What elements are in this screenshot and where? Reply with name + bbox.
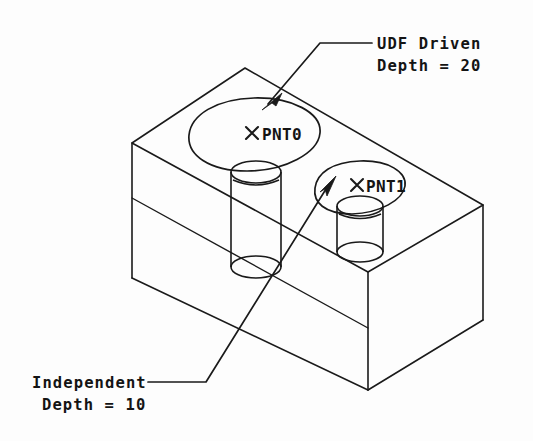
leader-arrow-icon [262, 93, 282, 110]
x-cross-icon [246, 127, 258, 139]
block-solid [132, 68, 483, 390]
leader-independent [148, 176, 336, 382]
pnt1-label: PNT1 [366, 177, 406, 196]
block-bottom-right-edge [368, 320, 483, 390]
independent-line2: Depth = 10 [42, 396, 146, 414]
isometric-block-drawing: PNT0 PNT1 UDF Driven Depth = 20 Independ… [0, 0, 533, 441]
block-top-face [132, 68, 483, 272]
hole-pnt0-top-rim [231, 161, 281, 183]
point-marker-pnt1[interactable]: PNT1 [351, 177, 406, 196]
hole-pnt1-bottom-rim [337, 242, 383, 262]
hole-pnt1 [337, 196, 383, 262]
block-bottom-left-edge [132, 278, 368, 390]
annotation-independent: Independent Depth = 10 [32, 374, 147, 414]
point-marker-pnt0[interactable]: PNT0 [246, 125, 302, 144]
drawing-canvas: PNT0 PNT1 UDF Driven Depth = 20 Independ… [0, 0, 533, 441]
pnt0-label: PNT0 [262, 125, 302, 144]
block-internal-seam-edge [132, 198, 368, 328]
udf-line1: UDF Driven [377, 35, 481, 53]
independent-line1: Independent [32, 374, 147, 392]
leader-udf-line [268, 43, 372, 104]
x-cross-icon [351, 179, 363, 191]
leader-arrow-icon [320, 176, 336, 196]
leader-independent-line [148, 189, 326, 382]
udf-line2: Depth = 20 [377, 57, 481, 75]
leader-udf-driven [262, 43, 372, 110]
annotation-udf: UDF Driven Depth = 20 [377, 35, 481, 75]
